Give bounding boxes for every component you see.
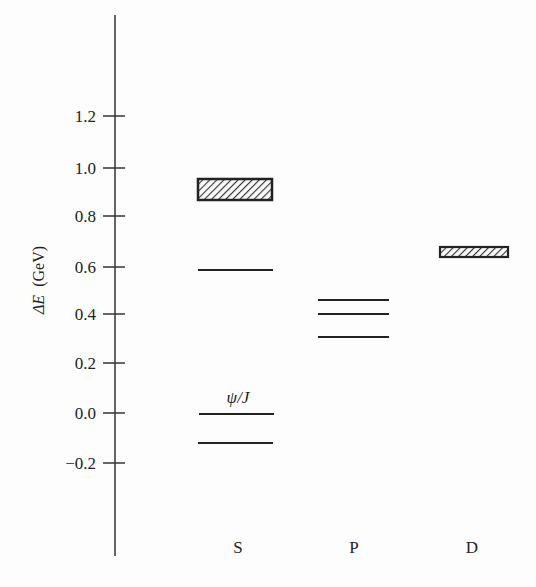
- tick-label: 0.4: [75, 305, 97, 324]
- ylabel-unit: (GeV): [30, 246, 48, 287]
- tick-label: 0.0: [75, 404, 96, 423]
- tick-label: 0.6: [75, 258, 96, 277]
- d-levels: [440, 247, 508, 257]
- svg-text:ΔE (GeV): ΔE (GeV): [30, 246, 48, 315]
- p-levels: [318, 300, 389, 337]
- tick-label: 0.8: [75, 207, 96, 226]
- s-levels: ψ/J: [198, 179, 274, 443]
- category-label-d: D: [466, 538, 478, 557]
- energy-level-diagram: 1.2 1.0 0.8 0.6 0.4 0.2 0.0 −0.2 ΔE (GeV…: [0, 0, 536, 587]
- y-ticks: [103, 116, 125, 463]
- category-label-s: S: [233, 538, 242, 557]
- tick-label: −0.2: [65, 454, 96, 473]
- s-hatched-band: [198, 179, 272, 200]
- tick-label: 1.2: [75, 107, 96, 126]
- tick-label: 1.0: [75, 159, 96, 178]
- category-label-p: P: [349, 538, 358, 557]
- y-tick-labels: 1.2 1.0 0.8 0.6 0.4 0.2 0.0 −0.2: [65, 107, 96, 473]
- category-labels: S P D: [233, 538, 478, 557]
- y-axis-title: ΔE (GeV): [30, 246, 48, 315]
- d-hatched-band: [440, 247, 508, 257]
- psi-j-label: ψ/J: [227, 388, 251, 407]
- ylabel-symbol: ΔE: [30, 295, 47, 315]
- tick-label: 0.2: [75, 354, 96, 373]
